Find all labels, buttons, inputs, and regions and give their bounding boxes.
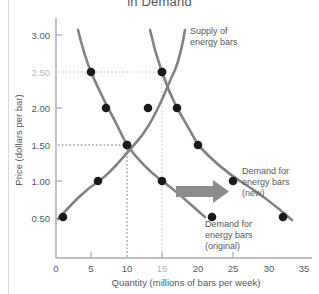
y-tick-label-2.50: 2.50 (32, 67, 51, 78)
supply-label-line2: energy bars (190, 37, 238, 47)
x-tick-label-10: 10 (122, 263, 133, 274)
demand-new-label: Demand for energy bars (new) (242, 166, 290, 198)
supply-point-6-1.00 (94, 177, 103, 186)
y-tick-label-1.50: 1.50 (32, 140, 51, 151)
demand-original-label-line1: Demand for (205, 219, 252, 229)
y-tick-label-3.00: 3.00 (32, 30, 51, 41)
x-tick-label-5: 5 (88, 263, 93, 274)
demand-original-point-15-1.00 (158, 177, 167, 186)
demand-new-label-line3: (new) (242, 188, 265, 198)
supply-demand-chart: 3.00 2.50 2.00 1.50 1.00 0.50 0 5 10 15 … (0, 0, 319, 294)
x-tick-label-35: 35 (299, 263, 310, 274)
x-tick-label-30: 30 (264, 263, 275, 274)
demand-new-label-line2: energy bars (242, 177, 290, 187)
x-axis-title: Quantity (millions of bars per week) (112, 277, 261, 288)
demand-original-point-10-1.50 (123, 141, 132, 150)
demand-new-point-20-1.50 (194, 141, 203, 150)
supply-label-line1: Supply of (190, 26, 228, 36)
equilibrium-guides (58, 72, 162, 258)
demand-original-point-7-2.00 (102, 104, 111, 113)
supply-label: Supply of energy bars (190, 26, 238, 47)
demand-new-point-15-2.50 (158, 68, 167, 77)
y-axis-ticks: 3.00 2.50 2.00 1.50 1.00 0.50 (32, 30, 63, 224)
demand-original-label: Demand for energy bars (original) (205, 219, 253, 251)
y-tick-label-0.50: 0.50 (32, 213, 51, 224)
demand-original-label-line2: energy bars (205, 230, 253, 240)
y-tick-label-1.00: 1.00 (32, 176, 51, 187)
supply-point-13-2.00 (144, 104, 153, 113)
supply-curve (58, 30, 185, 221)
x-axis-ticks: 0 5 10 15 20 25 30 35 (53, 252, 309, 274)
y-axis-title: Price (dollars per bar) (13, 94, 24, 185)
x-tick-label-25: 25 (228, 263, 239, 274)
supply-point-1-0.50 (59, 213, 68, 222)
demand-new-point-32-0.50 (279, 213, 288, 222)
demand-new-point-25-1.00 (229, 177, 238, 186)
supply-curve-line (58, 30, 185, 219)
x-tick-label-15: 15 (157, 263, 168, 274)
y-tick-label-2.00: 2.00 (32, 103, 51, 114)
demand-new-point-17-2.00 (173, 104, 182, 113)
x-tick-label-20: 20 (193, 263, 204, 274)
figure-container: in Demand 3.00 2.50 2.00 1.50 1.00 0.50 … (0, 0, 319, 294)
demand-new-label-line1: Demand for (242, 166, 289, 176)
demand-original-point-5-2.50 (87, 68, 96, 77)
axes (56, 18, 312, 258)
demand-original-label-line3: (original) (205, 241, 240, 251)
x-tick-label-0: 0 (53, 263, 58, 274)
